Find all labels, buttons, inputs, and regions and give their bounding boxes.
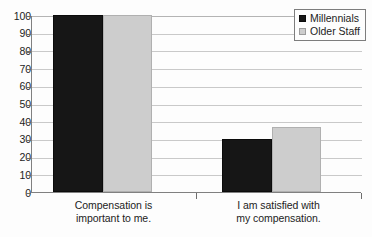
- plot-area: [31, 16, 361, 193]
- legend-item: Older Staff: [299, 26, 360, 37]
- chart-legend: MillennialsOlder Staff: [294, 9, 366, 41]
- bar-0-1: [103, 15, 153, 192]
- y-axis-tick-mark: [26, 193, 31, 194]
- legend-swatch-icon: [299, 28, 306, 35]
- legend-item-label: Millennials: [310, 13, 359, 24]
- bar-chart: 1009080706050403020100 Compensation isim…: [0, 0, 372, 237]
- x-axis-tick-mark: [361, 193, 362, 199]
- x-axis-category-label: I am satisfied withmy compensation.: [196, 199, 361, 224]
- legend-swatch-icon: [299, 15, 306, 22]
- y-axis: 1009080706050403020100: [0, 0, 31, 210]
- bar-1-0: [222, 139, 272, 192]
- x-axis-tick-mark: [196, 193, 197, 199]
- x-axis-category-label-line: important to me.: [31, 212, 196, 225]
- x-axis-category-label-line: my compensation.: [196, 212, 361, 225]
- x-axis-category-label: Compensation isimportant to me.: [31, 199, 196, 224]
- bar-0-0: [53, 15, 103, 192]
- bar-1-1: [272, 127, 322, 192]
- legend-item-label: Older Staff: [310, 26, 360, 37]
- x-axis-category-label-line: Compensation is: [31, 199, 196, 212]
- legend-item: Millennials: [299, 13, 360, 24]
- x-axis-category-label-line: I am satisfied with: [196, 199, 361, 212]
